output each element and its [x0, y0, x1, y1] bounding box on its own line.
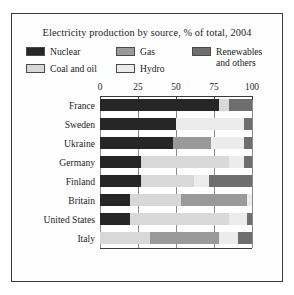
bar-track: [100, 172, 252, 191]
bar-segment: [229, 156, 244, 168]
legend-label-coal-and-oil: Coal and oil: [50, 63, 97, 74]
stacked-bar: [100, 232, 252, 244]
legend-swatch-gas: [116, 47, 135, 56]
bar-segment: [238, 232, 252, 244]
bar-segment: [244, 156, 252, 168]
legend-item-hydro: Hydro: [116, 63, 165, 74]
bar-segment: [141, 175, 194, 187]
stacked-bar: [100, 118, 252, 130]
bar-row: United States: [12, 210, 282, 229]
x-tick-mark: [214, 96, 215, 100]
x-tick-label: 100: [245, 82, 259, 92]
bar-segment: [247, 213, 252, 225]
bar-track: [100, 134, 252, 153]
x-tick-mark: [252, 96, 253, 100]
legend-item-coal-and-oil: Coal and oil: [26, 63, 97, 74]
category-label: United States: [12, 214, 100, 225]
plot-area: 0255075100 FranceSwedenUkraineGermanyFin…: [12, 82, 282, 274]
bar-track: [100, 191, 252, 210]
bar-segment: [100, 137, 173, 149]
chart-legend: Nuclear Coal and oil Gas Hydro Renewable…: [12, 46, 282, 80]
bar-row: Italy: [12, 229, 282, 248]
bar-segment: [176, 118, 244, 130]
bar-segment: [173, 137, 211, 149]
category-label: Sweden: [12, 119, 100, 130]
bar-segment: [141, 156, 229, 168]
legend-label-hydro: Hydro: [140, 63, 165, 74]
legend-item-nuclear: Nuclear: [26, 46, 80, 57]
bar-segment: [100, 213, 130, 225]
bar-track: [100, 229, 252, 248]
x-axis-tick-labels: 0255075100: [12, 82, 282, 96]
category-label: Germany: [12, 157, 100, 168]
bar-segment: [219, 232, 239, 244]
x-tick-label: 75: [209, 82, 218, 92]
bar-row: Sweden: [12, 115, 282, 134]
chart-title: Electricity production by source, % of t…: [12, 27, 282, 38]
category-label: Italy: [12, 233, 100, 244]
bar-row: Ukraine: [12, 134, 282, 153]
bar-track: [100, 210, 252, 229]
bar-row: France: [12, 96, 282, 115]
bar-segment: [130, 194, 180, 206]
bar-segment: [229, 213, 247, 225]
x-tick-label: 25: [133, 82, 142, 92]
stacked-bar: [100, 137, 252, 149]
bar-segment: [181, 194, 248, 206]
x-tick-mark: [100, 96, 101, 100]
stacked-bar: [100, 156, 252, 168]
legend-label-nuclear: Nuclear: [50, 46, 80, 57]
category-label: Finland: [12, 176, 100, 187]
bar-row: Britain: [12, 191, 282, 210]
stacked-bar: [100, 175, 252, 187]
category-label: Ukraine: [12, 138, 100, 149]
stacked-bar: [100, 213, 252, 225]
x-tick-label: 50: [171, 82, 180, 92]
bar-segment: [229, 99, 252, 111]
bar-segment: [130, 213, 229, 225]
chart-figure: Electricity production by source, % of t…: [11, 13, 283, 282]
bar-segment: [100, 99, 219, 111]
legend-item-gas: Gas: [116, 46, 155, 57]
legend-swatch-coal-and-oil: [26, 64, 45, 73]
legend-item-renewables: Renewables and others: [192, 46, 278, 68]
bar-row: Germany: [12, 153, 282, 172]
bar-segment: [100, 194, 130, 206]
bar-segment: [219, 99, 230, 111]
bar-segment: [247, 194, 252, 206]
bar-segment: [100, 156, 141, 168]
legend-swatch-nuclear: [26, 47, 45, 56]
legend-swatch-hydro: [116, 64, 135, 73]
x-axis-bottom-line: [100, 248, 252, 249]
stacked-bar: [100, 194, 252, 206]
legend-label-renewables: Renewables and others: [216, 46, 278, 68]
bar-rows: FranceSwedenUkraineGermanyFinlandBritain…: [12, 96, 282, 248]
bar-segment: [211, 137, 244, 149]
bar-segment: [100, 118, 176, 130]
bar-segment: [209, 175, 252, 187]
x-tick-mark: [138, 96, 139, 100]
bar-track: [100, 153, 252, 172]
legend-swatch-renewables: [192, 47, 211, 56]
bar-row: Finland: [12, 172, 282, 191]
category-label: Britain: [12, 195, 100, 206]
bar-segment: [100, 232, 150, 244]
legend-label-gas: Gas: [140, 46, 155, 57]
bar-segment: [100, 175, 141, 187]
bar-segment: [244, 118, 252, 130]
category-label: France: [12, 100, 100, 111]
bar-segment: [150, 232, 218, 244]
x-tick-mark: [176, 96, 177, 100]
x-tick-label: 0: [98, 82, 103, 92]
bar-segment: [244, 137, 252, 149]
bar-segment: [194, 175, 209, 187]
stacked-bar: [100, 99, 252, 111]
bar-track: [100, 115, 252, 134]
